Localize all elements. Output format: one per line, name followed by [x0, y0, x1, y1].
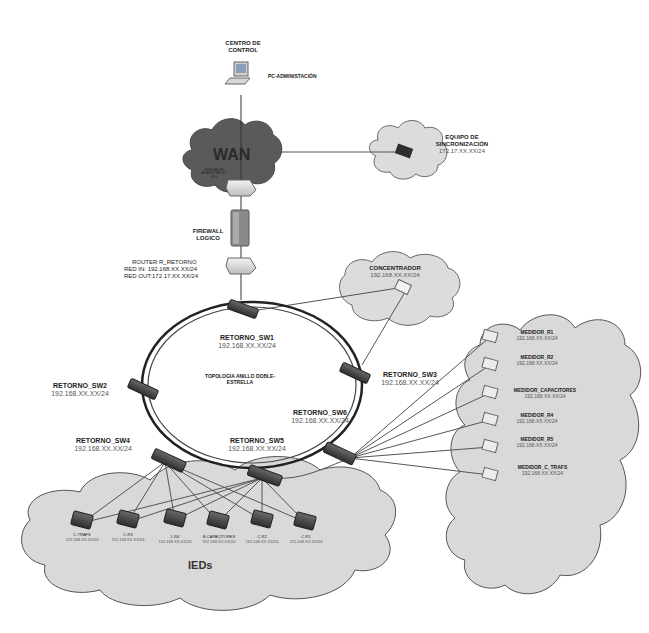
- meter-r2-label[interactable]: MEDIDOR_R2 192.168.XX.XX/24: [502, 355, 572, 367]
- meter-c-trafs-label[interactable]: MEDIDOR_C_TRAFS 192.168.XX.XX/24: [505, 465, 580, 477]
- switch-sw4-label: RETORNO_SW4 192.168.XX.XX/24: [68, 437, 138, 453]
- meter-r1-label[interactable]: MEDIDOR_R1 192.168.XX.XX/24: [502, 330, 572, 342]
- switch-sw3-label: RETORNO_SW3 192.168.XX.XX/24: [375, 371, 445, 387]
- meter-capacitores-label[interactable]: MEDIDOR_CAPACITORES 192.168.XX.XX/24: [505, 388, 585, 400]
- ied-b-capacitores-label[interactable]: B-CAPACITORES 192.168.XX.XX/24: [194, 535, 244, 544]
- ring-topology-label: TOPOLOGIA ANILLO DOBLE- ESTRELLA: [200, 374, 280, 386]
- ied-c-r1-label[interactable]: C-R1 192.168.XX.XX/24: [282, 535, 330, 544]
- switch-sw2-label: RETORNO_SW2 192.168.XX.XX/24: [45, 382, 115, 398]
- firewall-icon[interactable]: [231, 210, 249, 246]
- router-retorno-icon[interactable]: [226, 258, 256, 274]
- concentrador-label: CONCENTRADOR 192.168.XX.XX/24: [360, 265, 430, 279]
- ied-c-trafs-label[interactable]: C-TRAFS 192.168.XX.XX/24: [58, 533, 106, 542]
- firewall-label: FIREWALL LOGICO: [188, 228, 228, 242]
- switch-sw6-label: RETORNO_SW6 192.168.XX.XX/24: [285, 409, 355, 425]
- ieds-group-label: IEDs: [188, 559, 212, 572]
- router-icon[interactable]: [226, 180, 256, 196]
- ied-l-r4-label[interactable]: L-R4 192.168.XX.XX/24: [151, 535, 199, 544]
- router-retorno-label: ROUTER R_RETORNO RED IN: 192.168.XX.XX/2…: [124, 259, 198, 280]
- wan-label: WAN: [213, 146, 250, 164]
- sync-equipment-label: EQUIPO DE SINCRONIZACIÓN 172.17.XX.XX/24: [432, 134, 492, 155]
- router-wan-label: ENRUTADOR ADMINISTRATIVO GSG: [198, 169, 230, 179]
- meter-r5-label[interactable]: MEDIDOR_R5 192.168.XX.XX/24: [502, 437, 572, 449]
- ied-c-r2-label[interactable]: C-R2 192.168.XX.XX/24: [238, 535, 286, 544]
- meter-r4-label[interactable]: MEDIDOR_R4 192.168.XX.XX/24: [502, 413, 572, 425]
- pc-admin-label: PC-ADMINISTACIÓN: [268, 74, 317, 80]
- ied-c-r3-label[interactable]: C-R3 192.168.XX.XX/24: [104, 533, 152, 542]
- switch-sw5-label: RETORNO_SW5 192.168.XX.XX/24: [222, 437, 292, 453]
- computer-icon[interactable]: [225, 62, 250, 84]
- control-center-title: CENTRO DE CONTROL: [218, 40, 268, 54]
- switch-sw3-icon[interactable]: [339, 362, 370, 384]
- switch-sw1-label: RETORNO_SW1 192.168.XX.XX/24: [212, 334, 282, 350]
